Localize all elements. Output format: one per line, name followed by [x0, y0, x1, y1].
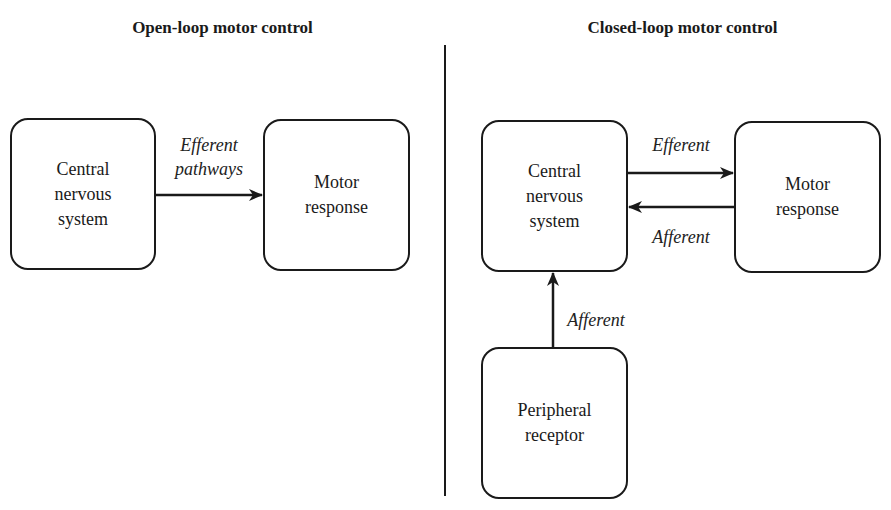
- closed-afferent-label: Afferent: [628, 225, 734, 249]
- peripheral-afferent-label: Afferent: [560, 308, 632, 332]
- open-efferent-label: Efferent pathways: [156, 133, 262, 181]
- open-loop-title: Open-loop motor control: [60, 18, 385, 38]
- open-motor-box: Motor response: [263, 119, 410, 271]
- closed-cns-label: Central nervous system: [526, 159, 583, 234]
- closed-cns-box: Central nervous system: [481, 120, 628, 272]
- closed-efferent-label: Efferent: [628, 133, 734, 157]
- closed-motor-label: Motor response: [776, 172, 839, 222]
- peripheral-receptor-box: Peripheral receptor: [481, 347, 628, 499]
- open-cns-label: Central nervous system: [55, 157, 112, 232]
- closed-loop-title: Closed-loop motor control: [520, 18, 845, 38]
- closed-motor-box: Motor response: [734, 121, 881, 273]
- peripheral-receptor-label: Peripheral receptor: [518, 398, 592, 448]
- open-cns-box: Central nervous system: [10, 118, 156, 270]
- open-motor-label: Motor response: [305, 170, 368, 220]
